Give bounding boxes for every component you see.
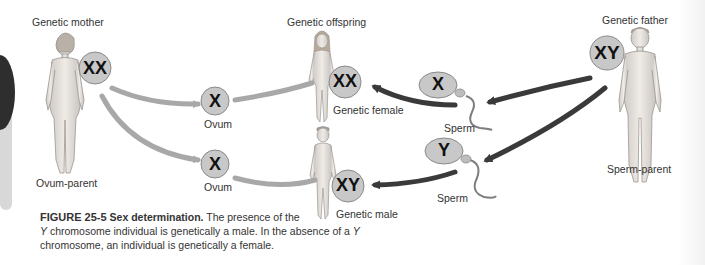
father-figure (619, 28, 661, 183)
caption-figure-number: FIGURE 25-5 (40, 211, 107, 223)
figure-caption: FIGURE 25-5 Sex determination. The prese… (40, 210, 370, 252)
sex-determination-figure: XX XY X X XX XY X Y Genetic mother Ovum-… (0, 0, 705, 265)
arrow-sperm-y-to-male (375, 172, 455, 185)
label-sperm-bottom: Sperm (437, 192, 468, 204)
arrow-father-to-sperm-x (490, 78, 590, 102)
ovum-top-chromosome: X (201, 91, 229, 112)
father-chromosomes: XY (590, 42, 624, 64)
label-genetic-father: Genetic father (602, 14, 668, 26)
arrow-ovum-bottom-to-male (235, 178, 315, 185)
label-ovum-parent: Ovum-parent (36, 177, 97, 189)
caption-y-2: Y (353, 225, 360, 237)
sperm-x-chromosome: X (424, 74, 452, 95)
arrow-mother-to-ovum-top (112, 88, 198, 104)
caption-text-1: The presence of the (204, 211, 300, 223)
label-sperm-top: Sperm (444, 122, 475, 134)
female-offspring-chromosomes: XX (329, 71, 361, 92)
label-sperm-parent: Sperm-parent (607, 163, 671, 175)
ovum-bottom-chromosome: X (201, 154, 229, 175)
mother-figure (46, 33, 84, 173)
label-genetic-female: Genetic female (333, 104, 404, 116)
caption-y-1: Y (40, 225, 47, 237)
label-ovum-bottom: Ovum (204, 181, 232, 193)
caption-text-2: chromosome individual is genetically a m… (47, 225, 353, 237)
label-genetic-offspring: Genetic offspring (287, 16, 366, 28)
label-genetic-mother: Genetic mother (32, 16, 104, 28)
label-ovum-top: Ovum (204, 118, 232, 130)
caption-text-3: chromosome, an individual is genetically… (40, 239, 274, 251)
male-offspring-figure (310, 127, 336, 220)
male-offspring-chromosomes: XY (332, 175, 364, 196)
caption-title: Sex determination. (110, 211, 204, 223)
arrow-ovum-top-to-female (235, 83, 312, 100)
sperm-y-chromosome: Y (430, 140, 458, 161)
page-edge-tab (0, 55, 15, 210)
mother-chromosomes: XX (79, 58, 111, 79)
page-gutter-shadow (677, 0, 705, 265)
